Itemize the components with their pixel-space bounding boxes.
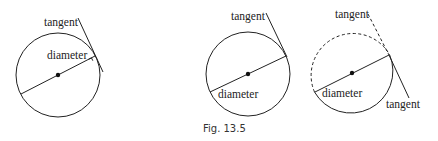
tangent-line-solid xyxy=(389,55,409,98)
figure-caption: Fig. 13.5 xyxy=(203,123,246,134)
circle-dashed-arc xyxy=(311,33,389,92)
tangent-line-dashed xyxy=(368,14,389,55)
tangent-label: tangent xyxy=(44,16,79,29)
tangent-label: tangent xyxy=(231,10,266,23)
tangent-label-bottom: tangent xyxy=(386,98,421,111)
right-angle-marker xyxy=(89,58,93,61)
center-point xyxy=(350,71,354,75)
circle-solid-arc xyxy=(315,55,393,114)
center-point xyxy=(56,73,60,77)
tangent-label-top: tangent xyxy=(335,8,370,21)
panel-1: tangent diameter xyxy=(16,16,103,117)
tangent-line xyxy=(78,18,103,72)
diameter-label: diameter xyxy=(47,49,87,61)
panel-3: tangent diameter tangent xyxy=(311,8,421,113)
tangent-line xyxy=(266,13,287,57)
diameter-label: diameter xyxy=(322,87,362,99)
center-point xyxy=(246,72,250,76)
diameter-label: diameter xyxy=(218,88,258,100)
panel-2: tangent diameter xyxy=(206,10,290,116)
figure-13-5: tangent diameter tangent diameter tangen… xyxy=(0,0,438,141)
